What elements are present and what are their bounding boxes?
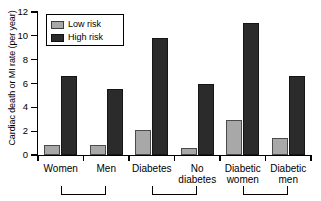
legend-swatch-low-risk xyxy=(51,21,64,29)
y-tick-6 xyxy=(31,83,37,84)
category-label-line2: men xyxy=(266,174,312,185)
y-tick-10 xyxy=(31,35,37,36)
category-label-women: Women xyxy=(38,163,84,174)
legend-item-high-risk: High risk xyxy=(51,31,123,44)
category-label-diabetic-men: Diabeticmen xyxy=(266,163,312,185)
x-tick-2 xyxy=(128,155,129,161)
category-label-line1: Diabetic xyxy=(220,163,266,174)
bar-low-risk-diabetic-women xyxy=(226,120,242,155)
category-label-line1: No xyxy=(175,163,221,174)
bar-high-risk-men xyxy=(107,89,123,155)
category-label-line2: diabetes xyxy=(175,174,221,185)
y-tick-label-12: 12 xyxy=(2,7,28,17)
x-tick-6 xyxy=(310,155,311,161)
y-tick-label-0: 0 xyxy=(2,150,28,160)
x-tick-4 xyxy=(219,155,220,161)
x-tick-5 xyxy=(265,155,266,161)
bar-low-risk-diabetic-men xyxy=(272,138,288,155)
bar-high-risk-diabetic-men xyxy=(289,76,305,155)
x-tick-1 xyxy=(83,155,84,161)
y-tick-12 xyxy=(31,11,37,12)
bar-low-risk-men xyxy=(90,145,106,155)
legend-swatch-high-risk xyxy=(51,34,64,42)
bar-low-risk-women xyxy=(44,145,60,155)
legend-label-high-risk: High risk xyxy=(68,33,103,42)
y-tick-2 xyxy=(31,131,37,132)
bar-high-risk-diabetes xyxy=(152,38,168,155)
bracket-1 xyxy=(61,186,107,195)
y-tick-4 xyxy=(31,107,37,108)
bar-low-risk-diabetes xyxy=(135,130,151,155)
y-tick-label-4: 4 xyxy=(2,102,28,112)
category-label-line1: Men xyxy=(84,163,130,174)
legend: Low risk High risk xyxy=(46,14,124,46)
bar-high-risk-women xyxy=(61,76,77,155)
bar-low-risk-no-diabetes xyxy=(181,148,197,155)
category-label-diabetic-women: Diabeticwomen xyxy=(220,163,266,185)
y-tick-0 xyxy=(31,154,37,155)
bracket-2 xyxy=(152,186,198,195)
legend-label-low-risk: Low risk xyxy=(68,20,101,29)
category-label-line1: Diabetic xyxy=(266,163,312,174)
legend-item-low-risk: Low risk xyxy=(51,18,123,31)
category-label-men: Men xyxy=(84,163,130,174)
bar-high-risk-no-diabetes xyxy=(198,84,214,156)
y-tick-label-2: 2 xyxy=(2,126,28,136)
x-tick-3 xyxy=(174,155,175,161)
y-tick-8 xyxy=(31,59,37,60)
y-tick-label-8: 8 xyxy=(2,55,28,65)
y-tick-label-10: 10 xyxy=(2,31,28,41)
category-label-line2: women xyxy=(220,174,266,185)
chart-container: Cardiac death or MI rate (per year) 0246… xyxy=(0,0,321,201)
x-tick-0 xyxy=(37,155,38,161)
bracket-3 xyxy=(243,186,289,195)
category-label-line1: Women xyxy=(38,163,84,174)
category-label-no-diabetes: Nodiabetes xyxy=(175,163,221,185)
category-label-line1: Diabetes xyxy=(129,163,175,174)
bar-high-risk-diabetic-women xyxy=(243,23,259,155)
category-label-diabetes: Diabetes xyxy=(129,163,175,174)
y-tick-label-6: 6 xyxy=(2,79,28,89)
